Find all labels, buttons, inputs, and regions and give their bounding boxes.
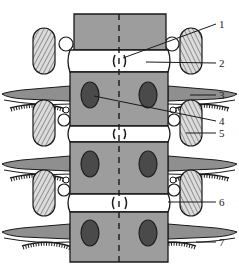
transverse-process-right-1	[180, 28, 202, 74]
pedicle-right-1	[139, 82, 157, 108]
label-2: 2	[219, 58, 225, 69]
foramen-right-1	[165, 37, 179, 51]
pedicle-left-3	[81, 220, 99, 246]
pedicle-left-1	[81, 82, 99, 108]
transverse-process-left-2	[33, 100, 55, 146]
transverse-process-right-3	[180, 170, 202, 216]
label-3: 3	[219, 90, 225, 101]
foramen-left-3	[58, 184, 70, 196]
transverse-process-left-3	[33, 170, 55, 216]
vertebral-body-1	[74, 14, 166, 50]
pedicle-right-2	[139, 151, 157, 177]
pedicle-right-3	[139, 220, 157, 246]
transverse-process-left-1	[33, 28, 55, 74]
spine-diagram	[0, 0, 239, 270]
foramen-right-2	[168, 114, 180, 126]
figure-root: 1 2 3 4 5 6 7	[0, 0, 239, 270]
transverse-process-right-2	[180, 100, 202, 146]
label-5: 5	[219, 128, 225, 139]
label-1: 1	[219, 19, 225, 30]
arc-end-left-2	[63, 177, 69, 183]
arc-end-left-1	[63, 107, 69, 113]
foramen-left-1	[59, 37, 73, 51]
foramen-right-3	[168, 184, 180, 196]
label-4: 4	[219, 116, 225, 127]
label-6: 6	[219, 197, 225, 208]
pedicle-left-2	[81, 151, 99, 177]
arc-end-right-2	[170, 177, 176, 183]
foramen-left-2	[58, 114, 70, 126]
label-7: 7	[219, 237, 225, 248]
